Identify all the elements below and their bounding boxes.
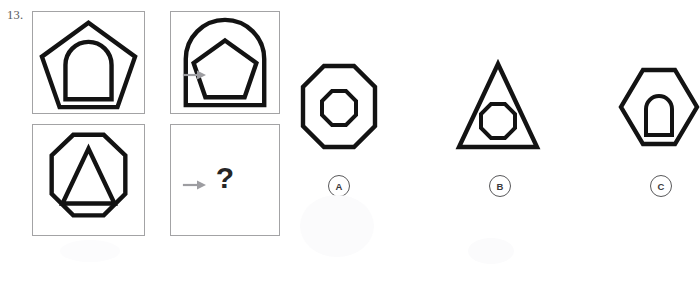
- pentagon-with-arch-icon: [33, 12, 144, 113]
- triangle-with-octagon-icon: [452, 56, 544, 168]
- matrix-cell-bottom-left: [32, 124, 145, 236]
- answer-label-b[interactable]: B: [489, 175, 511, 197]
- scan-artifact: [300, 195, 374, 257]
- matrix-cell-top-right: [170, 11, 280, 114]
- analogy-matrix: ?: [32, 11, 280, 236]
- scan-artifact: [468, 238, 514, 264]
- answer-option-b[interactable]: [452, 56, 544, 168]
- answer-option-a[interactable]: [293, 56, 385, 168]
- answer-label-a[interactable]: A: [328, 175, 350, 197]
- octagon-with-triangle-icon: [33, 125, 144, 235]
- hexagon-with-arch-icon: [613, 56, 700, 168]
- answer-label-c[interactable]: C: [650, 175, 672, 197]
- matrix-cell-top-left: [32, 11, 145, 114]
- answer-option-c[interactable]: [613, 56, 700, 168]
- octagon-with-octagon-icon: [293, 56, 385, 168]
- scan-artifact: [60, 240, 120, 262]
- unknown-marker: ?: [170, 124, 280, 236]
- right-arrow-icon-top: [182, 67, 208, 83]
- arch-with-pentagon-icon: [171, 12, 279, 113]
- question-number: 13.: [7, 8, 23, 23]
